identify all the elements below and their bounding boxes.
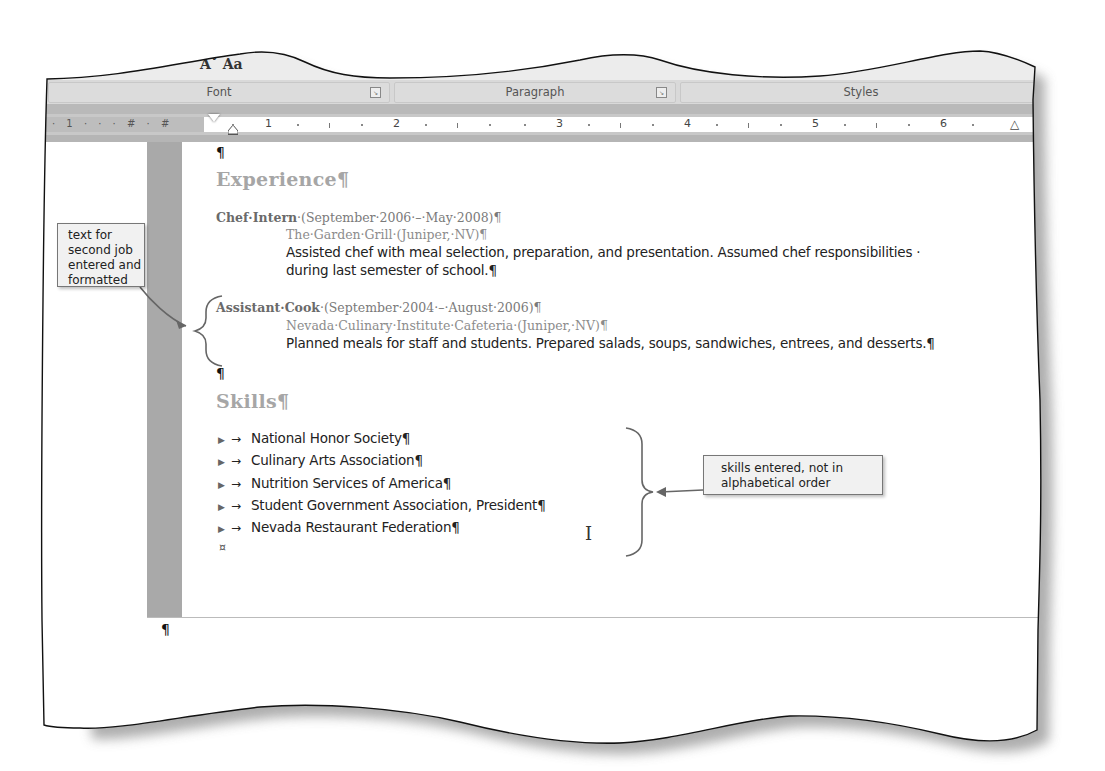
callout-second-job: text for second job entered and formatte… [57,223,145,287]
callout-line: text for [68,228,144,243]
document-canvas[interactable] [44,142,1044,742]
callout-skills-order: skills entered, not in alphabetical orde… [703,455,883,495]
ruler-number-3: 3 [556,117,563,130]
collapse-triangle-icon: ▶ [218,480,231,490]
skill-text: National Honor Society¶ [251,430,410,446]
ruler-dot [588,124,590,126]
ruler-number-1: 1 [265,117,272,130]
skill-list-item[interactable]: ▶→Student Government Association, Presid… [218,497,546,513]
ruler-number-6: 6 [940,117,947,130]
employer-line-2[interactable]: Nevada·Culinary·Institute·Cafeteria·(Jun… [286,318,608,333]
ruler-tick [329,123,330,128]
ruler-dot [297,124,299,126]
ruler-tick [457,123,458,128]
job-dates: ·(September·2006·–·May·2008)¶ [297,210,501,225]
end-of-cell-mark: ¤ [219,541,226,554]
word-window: Aˇ Aa Font ↘ Paragraph ↘ Styles · 1 · · [0,0,1105,771]
ruler-dot [524,124,526,126]
ruler-dot [972,124,974,126]
job-title-line-1[interactable]: Chef·Intern·(September·2006·–·May·2008)¶ [216,210,501,225]
skill-text: Student Government Association, Presiden… [251,497,546,513]
job-title-line-2[interactable]: Assistant·Cook·(September·2004·–·August·… [216,300,542,315]
ruler-dot [425,124,427,126]
ruler-left-ticks: · 1 · · · # · # [52,118,173,129]
page-clip: Aˇ Aa Font ↘ Paragraph ↘ Styles · 1 · · [0,0,1105,771]
ibeam-cursor-icon: I [585,523,592,544]
screenshot-stage: Aˇ Aa Font ↘ Paragraph ↘ Styles · 1 · · [0,0,1105,771]
table-bottom-border [147,617,1040,618]
ruler-dot [361,124,363,126]
skill-text: Nevada Restaurant Federation¶ [251,519,460,535]
right-indent-marker[interactable]: △ [1010,117,1019,131]
tab-arrow-icon: → [231,521,251,535]
ruler-number-2: 2 [393,117,400,130]
employer-line-1[interactable]: The·Garden·Grill·(Juniper,·NV)¶ [286,227,487,242]
ribbon-group-styles: Styles [680,82,1042,103]
callout-line: second job [68,243,144,258]
ruler-dot [232,124,234,126]
ruler-dot [489,124,491,126]
collapse-triangle-icon: ▶ [218,502,231,512]
callout-line: alphabetical order [721,476,882,491]
ruler-dot [716,124,718,126]
change-case-button[interactable]: Aˇ Aa [200,56,243,72]
job-title: Assistant·Cook [216,300,320,315]
ruler-dot [908,124,910,126]
job-title: Chef·Intern [216,210,297,225]
ribbon-top-row [0,40,1105,80]
group-label-styles: Styles [844,85,879,99]
paragraph-dialog-launcher-icon[interactable]: ↘ [656,87,667,98]
callout-line: formatted [68,273,144,288]
callout-line: entered and [68,258,144,273]
ruler-number-4: 4 [684,117,691,130]
collapse-triangle-icon: ▶ [218,435,231,445]
table-left-margin-shading [147,142,182,617]
ribbon-group-font: Font ↘ [48,82,390,103]
ruler-dot [652,124,654,126]
tab-arrow-icon: → [231,499,251,513]
ribbon-divider [44,104,1044,114]
group-label-paragraph: Paragraph [506,85,565,99]
font-dialog-launcher-icon[interactable]: ↘ [370,87,381,98]
after-table-paragraph-mark: ¶ [161,621,170,637]
skill-list-item[interactable]: ▶→Culinary Arts Association¶ [218,452,423,468]
ruler-dot [844,124,846,126]
tab-arrow-icon: → [231,432,251,446]
collapse-triangle-icon: ▶ [218,457,231,467]
ruler-dot [780,124,782,126]
collapse-triangle-icon: ▶ [218,524,231,534]
skill-text: Culinary Arts Association¶ [251,452,423,468]
skill-list-item[interactable]: ▶→Nevada Restaurant Federation¶ [218,519,460,535]
job-description-line[interactable]: during last semester of school.¶ [286,262,497,278]
ruler-tick [748,123,749,128]
ruler-number-5: 5 [812,117,819,130]
skills-heading[interactable]: Skills¶ [216,390,289,412]
first-line-indent-marker[interactable] [208,114,220,122]
ruler-tick [620,123,621,128]
tab-arrow-icon: → [231,477,251,491]
job-description-line[interactable]: Planned meals for staff and students. Pr… [286,335,935,351]
tab-arrow-icon: → [231,454,251,468]
ruler-lower-strip [44,135,1044,142]
job-description-line[interactable]: Assisted chef with meal selection, prepa… [286,244,920,260]
group-label-font: Font [206,85,231,99]
ribbon-group-labels: Font ↘ Paragraph ↘ Styles [44,80,1044,104]
ruler-tick [876,123,877,128]
skill-list-item[interactable]: ▶→National Honor Society¶ [218,430,410,446]
empty-paragraph-mark: ¶ [216,144,225,160]
blank-paragraph-mark: ¶ [216,365,225,381]
ribbon-group-paragraph: Paragraph ↘ [394,82,676,103]
skill-list-item[interactable]: ▶→Nutrition Services of America¶ [218,475,451,491]
job-dates: ·(September·2004·–·August·2006)¶ [320,300,542,315]
experience-heading[interactable]: Experience¶ [216,168,349,190]
skill-text: Nutrition Services of America¶ [251,475,451,491]
callout-line: skills entered, not in [721,461,882,476]
